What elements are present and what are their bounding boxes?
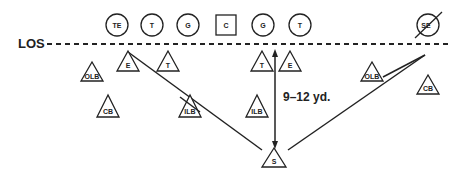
svg-text:OLB: OLB <box>365 73 380 80</box>
defense-ilb-right: ILB <box>246 95 268 117</box>
offense-guard-right: G <box>252 14 274 36</box>
svg-text:T: T <box>260 62 265 69</box>
offense-split-end: SE <box>415 12 442 38</box>
defense-end-right: E <box>279 51 301 71</box>
arrow-head-down-icon <box>272 141 278 149</box>
arrow-head-up-icon <box>272 49 278 57</box>
svg-text:CB: CB <box>423 85 433 92</box>
svg-text:ILB: ILB <box>184 108 195 115</box>
defense-olb-left: OLB <box>81 62 103 81</box>
coverage-line-left <box>128 52 262 150</box>
svg-text:ILB: ILB <box>251 108 262 115</box>
offense-tackle-right: T <box>289 14 311 36</box>
svg-text:G: G <box>185 22 191 29</box>
svg-text:T: T <box>166 62 171 69</box>
offense-center: C <box>216 15 236 35</box>
offense-tackle-left: T <box>141 14 163 36</box>
defense-end-left: E <box>117 51 139 71</box>
defense-safety: S <box>262 148 286 167</box>
svg-text:G: G <box>260 22 266 29</box>
defense-olb-right: OLB <box>361 62 383 81</box>
slash-icon <box>415 12 442 38</box>
football-formation-diagram: LOS TE T G C G T SE 9–12 yd. OLB <box>0 0 468 178</box>
los-label: LOS <box>18 36 45 51</box>
offense-te: TE <box>106 14 128 36</box>
svg-text:C: C <box>223 22 228 29</box>
svg-text:TE: TE <box>113 22 122 29</box>
svg-text:E: E <box>126 62 131 69</box>
svg-text:E: E <box>288 62 293 69</box>
defense-cb-left: CB <box>97 95 119 117</box>
offense-guard-left: G <box>177 14 199 36</box>
svg-text:S: S <box>272 158 277 165</box>
distance-label: 9–12 yd. <box>283 90 330 104</box>
defense-cb-right: CB <box>417 75 439 94</box>
svg-text:CB: CB <box>103 108 113 115</box>
defense-tackle-left: T <box>157 51 179 71</box>
defense-tackle-right: T <box>251 51 273 71</box>
svg-text:T: T <box>298 22 303 29</box>
svg-text:T: T <box>150 22 155 29</box>
svg-text:OLB: OLB <box>85 73 100 80</box>
